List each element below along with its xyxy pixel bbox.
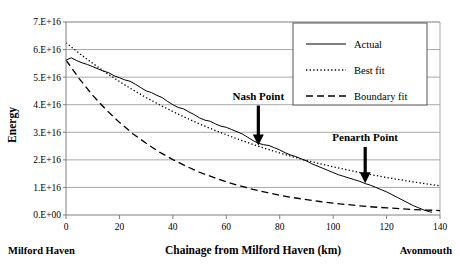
y-tick-label-3: 3.E+16: [33, 128, 61, 138]
y-axis-tick-labels: 0.E+001.E+162.E+163.E+164.E+165.E+166.E+…: [33, 17, 66, 220]
legend-label-boundary-fit: Boundary fit: [354, 91, 407, 102]
annotation-label-nash-point: Nash Point: [233, 90, 285, 102]
y-tick-label-2: 2.E+16: [33, 155, 61, 165]
y-tick-label-0: 0.E+00: [33, 210, 61, 220]
legend-label-actual: Actual: [354, 39, 382, 50]
chart-figure: 0.E+001.E+162.E+163.E+164.E+165.E+166.E+…: [0, 0, 460, 272]
y-tick-label-5: 5.E+16: [33, 73, 61, 83]
annotation-label-penarth-point: Penarth Point: [332, 131, 398, 143]
y-tick-label-4: 4.E+16: [33, 100, 61, 110]
x-axis-tick-labels: 020406080100120140: [64, 215, 448, 232]
y-axis-title: Energy: [6, 107, 19, 143]
endpoint-label-avonmouth: Avonmouth: [400, 245, 452, 256]
x-tick-label-0: 0: [64, 222, 69, 232]
x-tick-label-5: 100: [326, 222, 341, 232]
x-axis-title: Chainage from Milford Haven (km): [165, 244, 341, 257]
y-tick-label-1: 1.E+16: [33, 183, 61, 193]
axis-endpoint-left: Milford Haven: [8, 245, 75, 256]
x-tick-label-4: 80: [275, 222, 285, 232]
x-tick-label-2: 40: [168, 222, 178, 232]
axis-endpoint-right: Avonmouth: [400, 245, 452, 256]
chart-legend: ActualBest fitBoundary fit: [293, 23, 427, 105]
x-tick-label-1: 20: [115, 222, 125, 232]
x-tick-label-7: 140: [433, 222, 448, 232]
x-axis-title-text: Chainage from Milford Haven (km): [165, 244, 341, 257]
y-tick-label-6: 6.E+16: [33, 45, 61, 55]
x-tick-label-3: 60: [222, 222, 232, 232]
energy-chainage-chart: 0.E+001.E+162.E+163.E+164.E+165.E+166.E+…: [0, 0, 460, 272]
y-axis-title-text: Energy: [6, 107, 19, 143]
legend-label-best-fit: Best fit: [354, 65, 385, 76]
x-tick-label-6: 120: [379, 222, 394, 232]
y-tick-label-7: 7.E+16: [33, 17, 61, 27]
endpoint-label-milford-haven: Milford Haven: [8, 245, 75, 256]
